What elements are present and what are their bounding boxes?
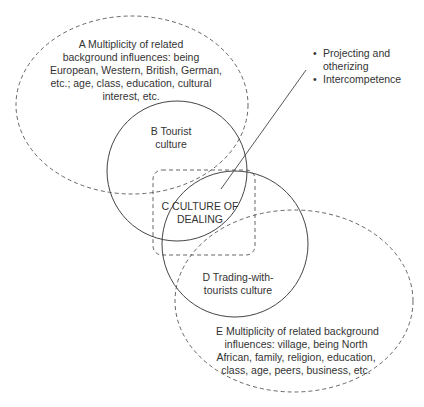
region-e-line-2: influences: village, being North xyxy=(216,338,376,351)
region-b-line-2: culture xyxy=(141,138,201,151)
region-d-line-2: tourists culture xyxy=(196,284,280,297)
region-c-label: C CULTURE OF DEALING xyxy=(160,200,240,226)
region-b-label: B Tourist culture xyxy=(141,125,201,151)
region-e-line-3: African, family, religion, education, xyxy=(216,351,376,364)
callout-item-1-line-1: Projecting and xyxy=(323,47,390,60)
region-d-line-1: D Trading-with- xyxy=(196,271,280,284)
region-a-line-4: etc.; age, class, education, cultural xyxy=(50,77,212,90)
callout-item-intercompetence: • Intercompetence xyxy=(313,73,401,86)
region-a-label: A Multiplicity of related background inf… xyxy=(50,38,212,103)
region-a-line-2: background influences: being xyxy=(50,51,212,64)
region-a-line-1: A Multiplicity of related xyxy=(50,38,212,51)
region-e-label: E Multiplicity of related background inf… xyxy=(216,325,376,377)
callout-item-1-line-2: otherizing xyxy=(323,60,390,73)
region-c-line-2: DEALING xyxy=(160,213,240,226)
region-a-line-5: interest, etc. xyxy=(50,90,212,103)
bullet-icon: • xyxy=(313,47,323,73)
region-e-line-1: E Multiplicity of related background xyxy=(216,325,376,338)
region-a-line-3: European, Western, British, German, xyxy=(50,64,212,77)
bullet-icon: • xyxy=(313,73,323,86)
region-e-line-4: class, age, peers, business, etc. xyxy=(216,364,376,377)
callout-bullet-list: • Projecting and otherizing • Intercompe… xyxy=(313,47,401,86)
region-c-line-1: C CULTURE OF xyxy=(160,200,240,213)
region-b-line-1: B Tourist xyxy=(141,125,201,138)
callout-item-2-line-1: Intercompetence xyxy=(323,73,401,86)
region-d-label: D Trading-with- tourists culture xyxy=(196,271,280,297)
callout-item-projecting: • Projecting and otherizing xyxy=(313,47,401,73)
